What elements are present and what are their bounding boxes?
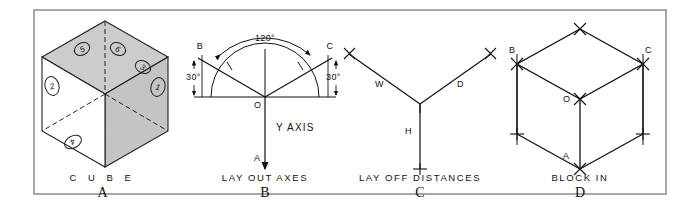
axes-drawing: 120° 30° 30° B C O A Y AXIS	[180, 9, 350, 184]
arm-w-label: W	[375, 79, 384, 89]
arm-d-label: D	[457, 79, 464, 89]
panel-b-caption: LAY OUT AXES	[180, 172, 350, 183]
isometric-cube-construction-figure: 5 6 3 1 2	[0, 0, 678, 213]
point-c-label: C	[327, 41, 334, 51]
distances-drawing: W D H	[335, 9, 505, 184]
vertex-o-label: O	[563, 94, 570, 104]
vertex-a-label: A	[563, 151, 569, 161]
panel-d-letter: D	[495, 185, 665, 201]
panel-a-caption: C U B E	[20, 172, 185, 183]
block-in-drawing: B C O A	[495, 9, 665, 184]
point-o-label: O	[254, 100, 261, 110]
y-axis-label: Y AXIS	[276, 122, 315, 133]
cube-drawing: 5 6 3 1 2	[20, 9, 185, 174]
vertex-c-label: C	[645, 45, 652, 55]
panel-c-letter: C	[335, 185, 505, 201]
panel-cube: 5 6 3 1 2	[20, 9, 185, 204]
point-b-label: B	[197, 41, 203, 51]
panel-d-caption: BLOCK IN	[495, 172, 665, 183]
panel-b-letter: B	[180, 185, 350, 201]
panel-lay-out-axes: 120° 30° 30° B C O A Y AXIS LAY OUT AXES…	[180, 9, 350, 204]
panel-block-in: B C O A BLOCK IN D	[495, 9, 665, 204]
panel-lay-off-distances: W D H LAY OFF DISTANCES C	[335, 9, 505, 204]
angle-total-label: 120°	[255, 33, 275, 43]
panel-c-caption: LAY OFF DISTANCES	[335, 172, 505, 183]
vertex-b-label: B	[509, 45, 515, 55]
panel-a-letter: A	[20, 185, 185, 201]
arm-h-label: H	[405, 126, 412, 136]
angle-left-label: 30°	[186, 72, 201, 82]
point-a-label: A	[254, 153, 260, 163]
